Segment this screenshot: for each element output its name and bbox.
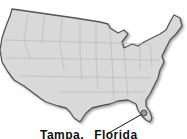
us-outline bbox=[0, 9, 182, 122]
location-marker bbox=[141, 110, 147, 116]
city-label: Tampa, bbox=[40, 128, 84, 139]
state-label: Florida bbox=[94, 128, 138, 139]
us-map bbox=[0, 0, 187, 139]
location-label: Tampa,Florida bbox=[40, 128, 148, 139]
